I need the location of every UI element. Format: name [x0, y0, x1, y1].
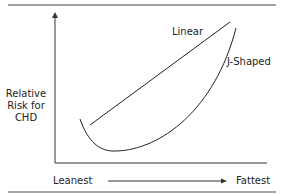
- x-direction-arrow-icon: [221, 179, 227, 184]
- ylabel-line-3: CHD: [2, 112, 50, 124]
- linear-series: [90, 22, 230, 125]
- j-shaped-series: [80, 28, 236, 151]
- ylabel-line-2: Risk for: [2, 100, 50, 112]
- linear-label: Linear: [172, 26, 203, 38]
- x-start-label: Leanest: [53, 175, 92, 187]
- ylabel-line-1: Relative: [2, 88, 50, 100]
- y-axis-arrow-icon: [52, 12, 58, 18]
- y-axis-label: Relative Risk for CHD: [2, 88, 50, 124]
- jshaped-label: J-Shaped: [227, 56, 271, 68]
- x-end-label: Fattest: [236, 175, 270, 187]
